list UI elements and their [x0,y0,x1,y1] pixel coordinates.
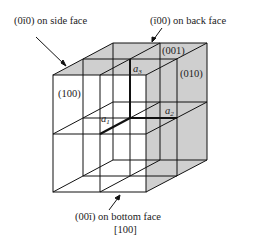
back-face-label: (ī00) on back face [150,15,226,27]
face-100-label: (100) [58,88,81,100]
side-face-label: (0ī0) on side face [14,15,88,27]
bottom-face-pointer [109,198,118,210]
cube-diagram: (0ī0) on side face (ī00) on back face (0… [0,0,257,239]
bottom-face-label: (00ī) on bottom face [75,211,161,223]
face-010-label: (010) [180,68,203,80]
a1-label: a1 [101,113,110,126]
face-001-label: (001) [162,45,185,57]
figure-caption: [100] [114,224,137,235]
